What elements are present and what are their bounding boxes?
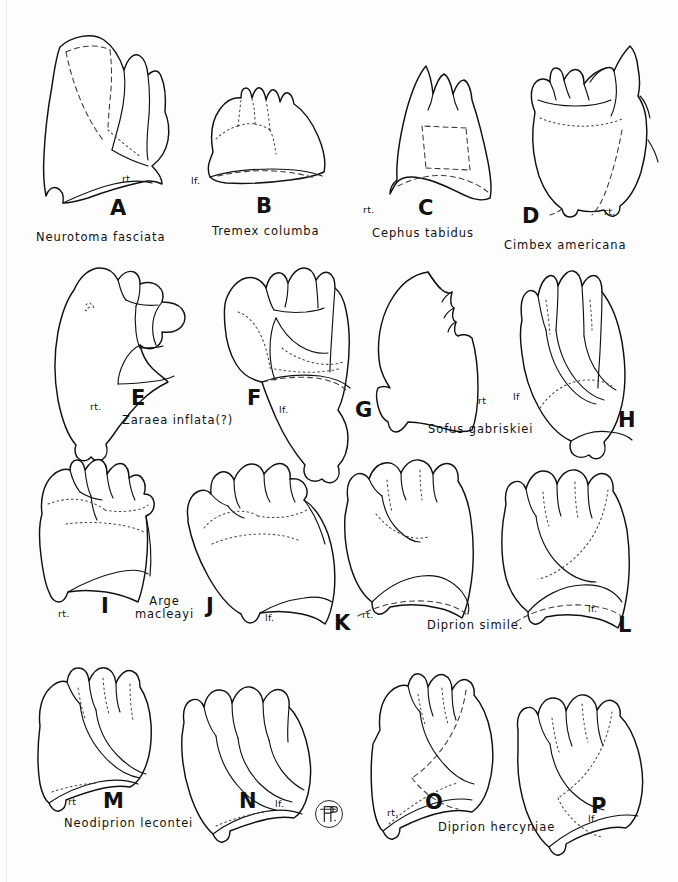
specimen-side-L: lf. [588, 604, 597, 614]
specimen-letter-J: J [206, 596, 214, 617]
specimen-drawing-B [209, 88, 325, 184]
specimen-letter-C: C [418, 198, 434, 219]
specimen-drawing-E [55, 268, 185, 461]
specimen-drawing-C [390, 66, 491, 200]
specimen-species-K: Diprion simile. [427, 620, 523, 632]
specimen-side-B: lf. [191, 176, 200, 186]
specimen-letter-B: B [256, 196, 273, 217]
specimen-side-P: lf. [588, 814, 597, 824]
specimen-side-G: rt [478, 396, 486, 406]
specimen-drawing-N [182, 687, 311, 842]
specimen-species-O: Diprion hercyniae [438, 822, 555, 834]
specimen-drawing-H [521, 271, 633, 459]
illustration-plate: A Neurotoma fasciata rt. B Tremex columb… [0, 0, 678, 882]
specimen-drawings [0, 0, 678, 882]
specimen-letter-O: O [425, 792, 443, 813]
specimen-drawing-F [224, 268, 350, 483]
specimen-drawing-G [377, 272, 479, 432]
specimen-species-G: Sofus gabriskiei [428, 424, 533, 436]
specimen-letter-N: N [239, 791, 257, 812]
specimen-side-F: lf. [279, 405, 288, 415]
specimen-species-C: Cephus tabidus [372, 228, 474, 240]
specimen-species-M: Neodiprion lecontei [64, 818, 193, 830]
specimen-drawing-L [502, 470, 629, 628]
specimen-species-B: Tremex columba [212, 226, 319, 238]
specimen-drawing-M [38, 668, 151, 811]
specimen-drawing-A [44, 36, 169, 203]
specimen-side-A: rt. [122, 174, 134, 184]
specimen-letter-M: M [103, 791, 124, 812]
specimen-species-E: Zaraea inflata(?) [122, 415, 233, 427]
specimen-drawing-D [531, 46, 658, 217]
specimen-letter-A: A [110, 198, 127, 219]
specimen-letter-G: G [355, 400, 373, 421]
specimen-side-N: lf. [275, 799, 284, 809]
specimen-drawing-I [40, 459, 155, 602]
specimen-side-C: rt. [363, 205, 375, 215]
specimen-letter-H: H [618, 410, 636, 431]
specimen-side-E: rt. [90, 402, 102, 412]
specimen-side-H: lf [513, 392, 520, 402]
specimen-side-O: rt. [387, 808, 399, 818]
specimen-letter-D: D [522, 206, 540, 227]
specimen-letter-I: I [101, 596, 109, 617]
specimen-species-I: Arge macleayi [135, 595, 194, 621]
artist-monogram-icon [315, 800, 343, 828]
specimen-letter-K: K [334, 613, 351, 634]
specimen-side-I: rt. [58, 609, 70, 619]
specimen-side-J: lf. [265, 613, 274, 623]
specimen-letter-F: F [247, 388, 262, 409]
specimen-drawing-K [345, 460, 473, 618]
specimen-side-K: rt. [362, 610, 374, 620]
specimen-side-M: rt [68, 797, 76, 807]
specimen-side-D: rt. [604, 207, 616, 217]
specimen-letter-E: E [131, 388, 146, 409]
specimen-letter-L: L [618, 615, 632, 636]
specimen-species-A: Neurotoma fasciata [36, 232, 165, 244]
specimen-species-D: Cimbex americana [504, 240, 626, 252]
